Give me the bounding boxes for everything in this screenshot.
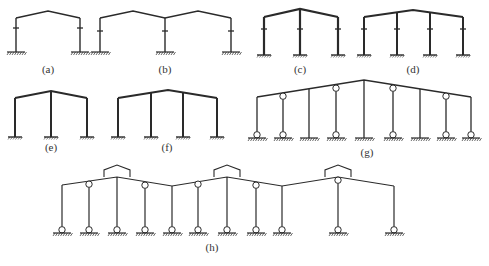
frames-layer: (a)(b)(c)(d)(e)(f)(g)(h): [7, 9, 482, 254]
base-hinge-icon: [468, 132, 474, 138]
top-hinge-icon: [280, 93, 286, 99]
top-hinge-icon: [335, 177, 341, 183]
base-hinge-icon: [391, 227, 397, 233]
frame-label: (b): [159, 63, 172, 76]
frame-d: (d): [357, 10, 471, 76]
diagram-svg: (a)(b)(c)(d)(e)(f)(g)(h): [0, 0, 489, 266]
base-hinge-icon: [169, 227, 175, 233]
roof-beam: [364, 10, 463, 17]
roof-beam: [16, 11, 80, 18]
roof-monitor: [214, 165, 240, 177]
frame-label: (g): [361, 146, 374, 159]
top-hinge-icon: [86, 181, 92, 187]
base-hinge-icon: [280, 132, 286, 138]
frame-label: (d): [407, 63, 420, 76]
frame-e: (e): [8, 91, 95, 154]
roof-monitor: [104, 165, 130, 177]
frame-a: (a): [7, 11, 91, 76]
frame-label: (f): [162, 141, 173, 154]
top-hinge-icon: [142, 182, 148, 188]
base-hinge-icon: [253, 227, 259, 233]
base-hinge-icon: [195, 227, 201, 233]
base-hinge-icon: [390, 132, 396, 138]
base-hinge-icon: [335, 227, 341, 233]
top-hinge-icon: [390, 85, 396, 91]
frame-b: (b): [91, 11, 242, 76]
frame-label: (a): [42, 63, 55, 76]
base-hinge-icon: [224, 227, 230, 233]
frame-f: (f): [111, 90, 225, 154]
frame-c: (c): [257, 9, 346, 76]
roof-beam: [100, 11, 231, 18]
base-hinge-icon: [114, 227, 120, 233]
frame-label: (h): [206, 241, 219, 254]
base-hinge-icon: [254, 132, 260, 138]
roof-monitor: [325, 165, 351, 177]
base-hinge-icon: [443, 132, 449, 138]
portal-frame-diagram: (a)(b)(c)(d)(e)(f)(g)(h): [0, 0, 489, 266]
frame-h: (h): [53, 165, 405, 254]
base-hinge-icon: [86, 227, 92, 233]
base-hinge-icon: [333, 132, 339, 138]
base-hinge-icon: [279, 227, 285, 233]
roof-beam: [62, 177, 394, 186]
base-hinge-icon: [59, 227, 65, 233]
top-hinge-icon: [253, 182, 259, 188]
top-hinge-icon: [195, 181, 201, 187]
frame-label: (c): [294, 63, 307, 76]
base-hinge-icon: [142, 227, 148, 233]
frame-g: (g): [248, 80, 482, 159]
frame-label: (e): [45, 141, 58, 154]
top-hinge-icon: [443, 93, 449, 99]
top-hinge-icon: [333, 85, 339, 91]
roof-beam: [118, 90, 217, 98]
